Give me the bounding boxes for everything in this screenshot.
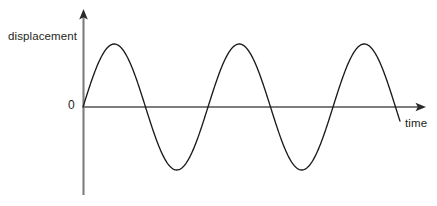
origin-tick-label: 0 (68, 99, 75, 112)
x-axis-label: time (405, 117, 427, 130)
displacement-time-graph: displacement 0 time (0, 0, 437, 206)
y-axis-label: displacement (8, 30, 77, 43)
